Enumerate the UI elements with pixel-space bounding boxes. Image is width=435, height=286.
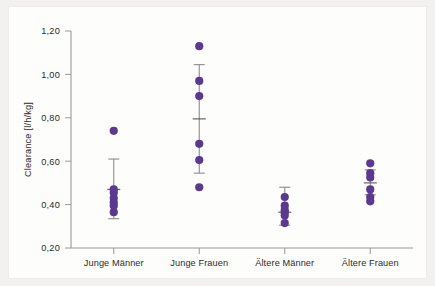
x-tick-label-junge-maenner: Junge Männer	[84, 258, 144, 268]
y-tick-label: 1,00	[41, 70, 60, 80]
data-point	[195, 42, 203, 50]
data-point	[195, 140, 203, 148]
plot-background	[9, 7, 426, 278]
chart-plate: 1,20 1,00 0,80 0,60 0,40 0,20 Clearance …	[9, 7, 426, 278]
data-point	[195, 183, 203, 191]
data-point	[195, 156, 203, 164]
data-point	[281, 219, 289, 227]
x-tick-label-aeltere-frauen: Ältere Frauen	[342, 258, 399, 268]
x-tick-label-aeltere-maenner: Ältere Männer	[255, 258, 314, 268]
data-point	[366, 159, 374, 167]
y-axis-title: Clearance [l/h/kg]	[23, 102, 33, 177]
x-tick-label-junge-frauen: Junge Frauen	[170, 258, 228, 268]
data-point	[366, 173, 374, 181]
y-tick-label: 1,20	[41, 26, 60, 36]
data-point	[195, 77, 203, 85]
data-point	[281, 211, 289, 219]
data-point	[110, 127, 118, 135]
data-point	[366, 185, 374, 193]
data-point	[195, 92, 203, 100]
y-tick-label: 0,20	[41, 243, 60, 253]
data-point	[366, 197, 374, 205]
figure-container: 1,20 1,00 0,80 0,60 0,40 0,20 Clearance …	[0, 0, 435, 286]
data-point	[110, 208, 118, 216]
y-tick-label: 0,60	[41, 157, 60, 167]
scatter-plot: 1,20 1,00 0,80 0,60 0,40 0,20 Clearance …	[9, 7, 426, 278]
y-tick-label: 0,40	[41, 200, 60, 210]
y-tick-label: 0,80	[41, 113, 60, 123]
data-point	[281, 193, 289, 201]
